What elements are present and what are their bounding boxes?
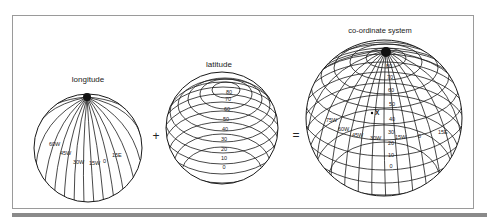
svg-text:40: 40 (222, 126, 228, 132)
svg-text:0: 0 (389, 163, 392, 169)
point-x-label: X (375, 109, 380, 116)
svg-text:50: 50 (223, 116, 229, 122)
svg-text:30: 30 (221, 136, 227, 142)
longitude-labels: 60W 45W 30W 15W 0 15E (49, 141, 122, 166)
svg-text:30: 30 (388, 129, 394, 135)
longitude-title: longitude (72, 75, 105, 84)
svg-text:75W: 75W (326, 117, 338, 123)
svg-text:15E: 15E (112, 152, 122, 158)
svg-text:60W: 60W (49, 141, 61, 147)
svg-text:30W: 30W (370, 135, 382, 141)
coordinate-latitude-labels: 80 70 60 50 40 30 20 10 0 (386, 63, 395, 169)
svg-text:45W: 45W (60, 150, 72, 156)
svg-text:45W: 45W (352, 132, 364, 138)
svg-text:60: 60 (224, 106, 230, 112)
svg-text:0: 0 (418, 133, 421, 139)
svg-text:60W: 60W (338, 126, 350, 132)
svg-text:15W: 15W (89, 160, 101, 166)
north-pole-dot (381, 47, 391, 57)
latitude-labels: 80 70 60 50 40 30 20 10 0 (221, 89, 232, 170)
latitude-globe: latitude 80 70 60 50 40 30 20 10 0 (162, 60, 282, 197)
svg-text:30W: 30W (73, 159, 85, 165)
svg-text:0: 0 (103, 158, 106, 164)
svg-text:80: 80 (226, 89, 232, 95)
coordinate-system-title: co-ordinate system (348, 26, 411, 35)
svg-text:80: 80 (386, 63, 392, 69)
svg-text:70: 70 (225, 96, 231, 102)
longitude-globe: longitude 60W 45W 30W 15W (34, 75, 142, 205)
svg-text:70: 70 (387, 74, 393, 80)
svg-text:15E: 15E (438, 129, 448, 135)
meridian-lines (34, 97, 142, 205)
svg-text:20: 20 (221, 146, 227, 152)
svg-text:40: 40 (389, 116, 395, 122)
latitude-title: latitude (206, 60, 232, 69)
svg-text:10: 10 (388, 152, 394, 158)
point-x-marker (371, 112, 373, 114)
svg-text:15W: 15W (395, 134, 407, 140)
svg-text:60: 60 (388, 87, 394, 93)
svg-text:20: 20 (388, 140, 394, 146)
svg-text:10: 10 (221, 155, 227, 161)
svg-text:0: 0 (222, 164, 225, 170)
plus-operator: + (152, 129, 159, 143)
equals-operator: = (292, 128, 299, 142)
coordinate-globe: co-ordinate system (299, 26, 469, 217)
globe-diagram: longitude 60W 45W 30W 15W (0, 0, 487, 217)
svg-text:50: 50 (389, 101, 395, 107)
